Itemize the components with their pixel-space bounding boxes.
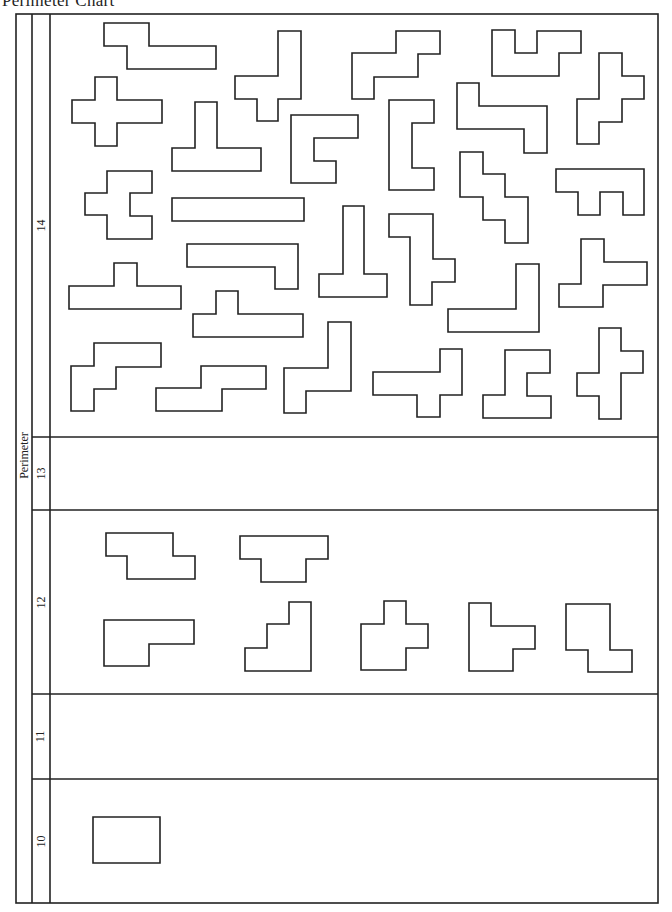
row-label-12: 12	[34, 596, 49, 608]
row-label-10: 10	[34, 835, 49, 847]
polyomino-shape-perimeter-14	[156, 366, 266, 411]
row-label-13: 13	[34, 468, 49, 480]
axis-label: Perimeter	[16, 432, 31, 479]
polyomino-shape-perimeter-12	[361, 601, 428, 670]
polyomino-shape-perimeter-14	[69, 263, 181, 309]
polyomino-shape-perimeter-14	[172, 102, 261, 171]
polyomino-shape-perimeter-12	[240, 536, 328, 582]
polyomino-shape-perimeter-14	[291, 115, 358, 183]
polyomino-shape-perimeter-14	[187, 244, 298, 289]
polyomino-shape-perimeter-14	[193, 291, 303, 337]
polyomino-shape-perimeter-14	[577, 328, 643, 419]
polyomino-shape-perimeter-14	[172, 198, 304, 221]
outer-border	[16, 14, 658, 903]
polyomino-shape-perimeter-14	[72, 77, 162, 146]
polyomino-shape-perimeter-14	[85, 171, 152, 239]
polyomino-shape-perimeter-14	[71, 343, 161, 411]
polyomino-shape-perimeter-12	[566, 604, 632, 672]
chart-frame	[16, 14, 658, 903]
row-label-14: 14	[34, 220, 49, 232]
polyomino-shape-perimeter-12	[469, 603, 535, 671]
polyomino-shape-perimeter-14	[559, 239, 647, 307]
polyomino-shape-perimeter-14	[492, 30, 581, 76]
polyomino-shape-perimeter-14	[389, 214, 455, 305]
polyomino-shape-perimeter-14	[483, 350, 551, 418]
polyomino-shape-perimeter-14	[457, 83, 547, 153]
polyomino-shape-perimeter-14	[104, 23, 216, 69]
perimeter-chart	[0, 0, 672, 912]
polyomino-shape-perimeter-14	[577, 53, 644, 144]
polyomino-shape-perimeter-14	[460, 152, 528, 243]
polyomino-shape-perimeter-12	[104, 620, 194, 666]
polyomino-shape-perimeter-14	[389, 100, 434, 190]
polyomino-shape-perimeter-14	[319, 206, 387, 297]
polyomino-shape-perimeter-14	[373, 349, 462, 417]
polyomino-shape-perimeter-14	[448, 264, 539, 332]
polyomino-shape-perimeter-14	[556, 169, 644, 215]
polyomino-shape-perimeter-12	[245, 602, 311, 671]
polyomino-shape-perimeter-10	[93, 817, 160, 863]
polyomino-shape-perimeter-12	[106, 533, 195, 579]
polyomino-shape-perimeter-14	[235, 31, 301, 121]
polyomino-shape-perimeter-14	[352, 31, 440, 99]
row-label-11: 11	[33, 731, 48, 743]
polyomino-shapes	[69, 23, 647, 863]
